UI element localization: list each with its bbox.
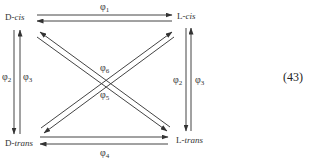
arrow-l-cis-to-d-trans bbox=[44, 37, 174, 133]
rate-phi3-right-label: φ3 bbox=[195, 74, 205, 87]
reaction-scheme-diagram: D-cis L-cis D-trans L-trans φ1 φ4 φ2 φ3 … bbox=[0, 0, 317, 158]
rate-phi1-label: φ1 bbox=[100, 1, 110, 14]
rate-phi4-label: φ4 bbox=[100, 147, 110, 158]
rate-phi2-left-label: φ2 bbox=[2, 71, 12, 84]
rate-phi3-left-label: φ3 bbox=[23, 71, 33, 84]
node-l-cis: L-cis bbox=[177, 11, 196, 21]
arrow-l-trans-to-d-cis bbox=[40, 32, 170, 127]
node-d-cis: D-cis bbox=[5, 12, 25, 22]
rate-phi6-label: φ6 bbox=[100, 62, 110, 75]
rate-phi2-right-label: φ2 bbox=[173, 74, 183, 87]
node-d-trans: D-trans bbox=[5, 138, 34, 148]
rate-phi5-label: φ5 bbox=[100, 89, 110, 102]
equation-number: (43) bbox=[283, 70, 303, 84]
node-l-trans: L-trans bbox=[176, 135, 204, 145]
